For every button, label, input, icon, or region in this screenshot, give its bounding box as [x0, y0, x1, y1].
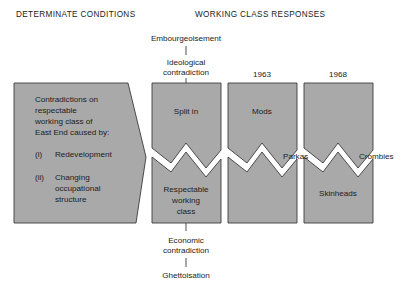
year-label-1968: 1968 — [329, 70, 348, 79]
label-respectable-line3: class — [177, 207, 195, 216]
header-working-class-responses: WORKING CLASS RESPONSES — [195, 10, 326, 19]
left-block-line2: respectable — [35, 106, 77, 115]
left-block-line4: East End caused by: — [35, 128, 109, 137]
label-crombies: Crombies — [359, 152, 394, 161]
label-skinheads: Skinheads — [319, 189, 357, 198]
left-block-item1-text: Redevelopment — [55, 150, 112, 159]
label-ideological-line1: Ideological — [167, 58, 206, 67]
label-split-in: Split in — [174, 107, 198, 116]
label-ideological-line2: contradiction — [163, 68, 209, 77]
diagram-canvas: DETERMINATE CONDITIONS WORKING CLASS RES… — [0, 0, 407, 291]
year-label-1963: 1963 — [253, 70, 272, 79]
left-block-item2-line3: structure — [55, 195, 87, 204]
left-block-line1: Contradictions on — [35, 95, 98, 104]
header-determinate-conditions: DETERMINATE CONDITIONS — [16, 10, 136, 19]
label-economic-line1: Economic — [168, 236, 204, 245]
left-block-item1-marker: (i) — [35, 150, 42, 159]
left-block-item2-line1: Changing — [55, 173, 90, 182]
label-respectable-line2: working — [171, 196, 200, 205]
left-block-item2-marker: (ii) — [35, 173, 44, 182]
left-block-item2-line2: occupational — [55, 184, 101, 193]
label-respectable-line1: Respectable — [164, 185, 209, 194]
label-parkas: Parkas — [283, 152, 308, 161]
label-economic-line2: contradiction — [163, 246, 209, 255]
left-block-line3: working class of — [34, 117, 93, 126]
label-ghettoisation: Ghettoisation — [162, 271, 210, 280]
flow-diagram: DETERMINATE CONDITIONS WORKING CLASS RES… — [0, 0, 407, 291]
label-mods: Mods — [252, 107, 272, 116]
label-embourgeoisement: Embourgeoisement — [151, 34, 222, 43]
